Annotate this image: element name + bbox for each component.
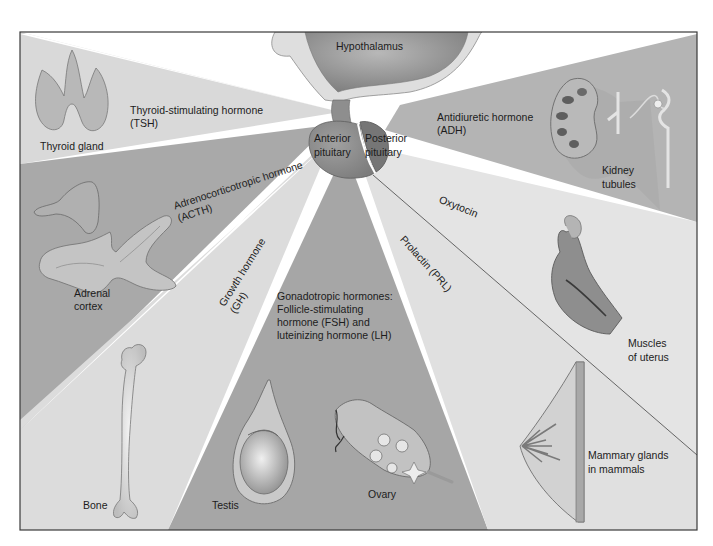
anterior-pituitary-label: Anterior pituitary — [314, 131, 351, 159]
ovary-label: Ovary — [368, 488, 396, 501]
kidney-label: Kidney tubules — [602, 163, 636, 191]
adh-label: Antidiuretic hormone (ADH) — [437, 111, 533, 137]
thyroid-label: Thyroid gland — [40, 140, 104, 153]
adrenal-label: Adrenal cortex — [74, 287, 110, 313]
hypothalamus-label: Hypothalamus — [336, 40, 403, 53]
gonadotropic-label: Gonadotropic hormones: Follicle-stimulat… — [277, 290, 393, 342]
mammary-label: Mammary glands in mammals — [588, 448, 669, 476]
pituitary-hormone-diagram: Hypothalamus Anterior pituitary Posterio… — [0, 0, 713, 546]
uterus-label: Muscles of uterus — [628, 336, 669, 364]
testis-label: Testis — [212, 499, 239, 512]
tsh-label: Thyroid-stimulating hormone (TSH) — [130, 104, 263, 130]
posterior-pituitary-label: Posterior pituitary — [365, 131, 407, 159]
bone-label: Bone — [83, 499, 108, 512]
